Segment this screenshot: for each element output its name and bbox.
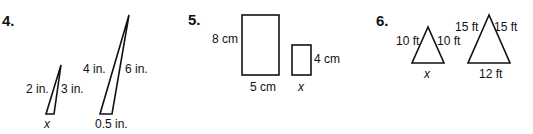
figures	[0, 0, 533, 134]
label-5-small-height: 4 cm	[314, 52, 340, 66]
label-4-small-base: x	[44, 117, 50, 131]
label-4-large-base: 0.5 in.	[95, 117, 128, 131]
rect-5-large	[242, 15, 279, 75]
label-6-large-base: 12 ft	[479, 67, 502, 81]
label-4-large-right: 6 in.	[125, 62, 148, 76]
label-6-small-left: 10 ft	[396, 34, 419, 48]
label-5-large-width: 5 cm	[250, 80, 276, 94]
label-6-small-right: 10 ft	[437, 34, 460, 48]
label-6-large-left: 15 ft	[455, 20, 478, 34]
problem-number-5: 5.	[188, 11, 201, 28]
label-6-small-base: x	[424, 67, 430, 81]
problem-number-6: 6.	[376, 12, 389, 29]
label-4-small-right: 3 in.	[61, 82, 84, 96]
problem-number-4: 4.	[2, 12, 15, 29]
label-6-large-right: 15 ft	[494, 20, 517, 34]
label-5-small-width: x	[298, 80, 304, 94]
rect-5-small	[292, 45, 311, 75]
label-4-small-left: 2 in.	[26, 82, 49, 96]
label-4-large-left: 4 in.	[83, 62, 106, 76]
label-5-large-height: 8 cm	[212, 32, 238, 46]
